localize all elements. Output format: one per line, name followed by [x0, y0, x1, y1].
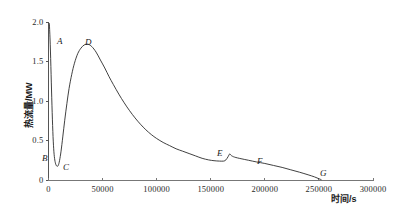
x-axis-title: 时间/s	[331, 192, 357, 205]
point-label-c: C	[63, 162, 69, 172]
point-label-g: G	[320, 168, 327, 178]
heat-release-rate-chart: 00.51.01.52.0 05000010000015000020000025…	[0, 0, 396, 210]
point-label-d: D	[85, 37, 92, 47]
y-tick-label: 2.0	[32, 17, 43, 27]
chart-plot-area	[0, 0, 396, 210]
axes-group	[46, 22, 374, 181]
point-label-f: F	[257, 156, 263, 166]
point-label-a: A	[57, 36, 63, 46]
y-axis-title: 热流量/MW	[22, 83, 35, 129]
y-tick-label: 1.5	[32, 56, 43, 66]
point-label-e: E	[217, 148, 223, 158]
y-tick-label: 0.5	[32, 135, 43, 145]
point-label-b: B	[42, 153, 48, 163]
